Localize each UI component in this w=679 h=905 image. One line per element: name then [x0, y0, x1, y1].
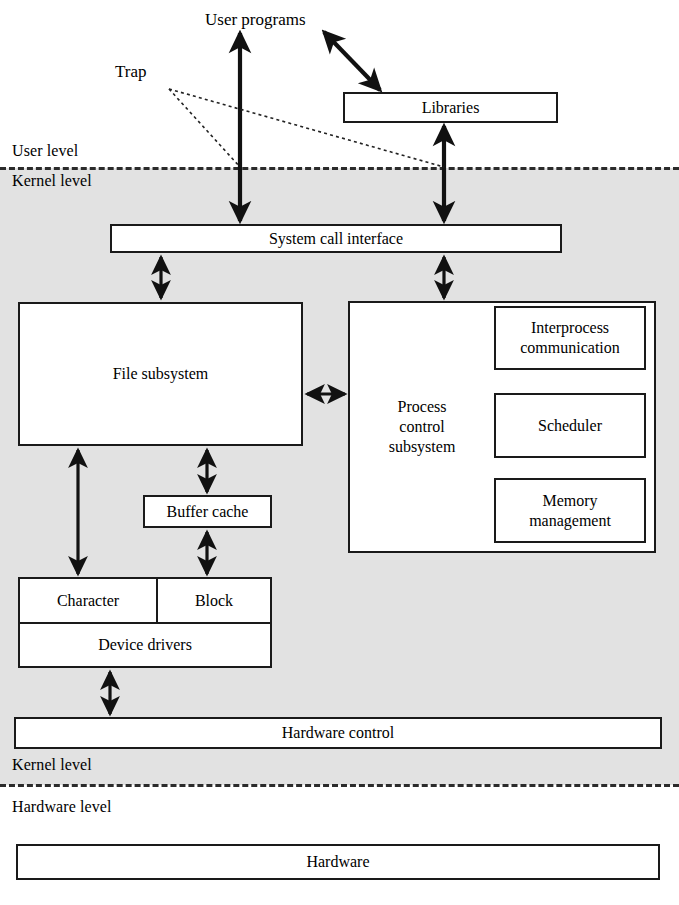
- device-types-row: Character Block: [18, 577, 272, 622]
- character-cell[interactable]: Character: [20, 579, 158, 622]
- hardware-box[interactable]: Hardware: [16, 844, 660, 880]
- scheduler-label: Scheduler: [538, 417, 602, 435]
- hardware-control-box[interactable]: Hardware control: [14, 717, 662, 749]
- level-label-kernel-top: Kernel level: [12, 172, 92, 190]
- interprocess-communication-box[interactable]: Interprocess communication: [494, 306, 646, 370]
- block-label: Block: [195, 592, 233, 610]
- user-kernel-divider: [0, 167, 679, 170]
- buffer-cache-box[interactable]: Buffer cache: [143, 495, 272, 528]
- buffer-cache-label: Buffer cache: [167, 503, 249, 521]
- level-label-kernel-bottom: Kernel level: [12, 756, 92, 774]
- system-call-interface-label: System call interface: [269, 230, 403, 248]
- libraries-box[interactable]: Libraries: [343, 92, 558, 123]
- character-label: Character: [57, 592, 119, 610]
- kernel-hardware-divider: [0, 784, 679, 787]
- hardware-control-label: Hardware control: [282, 724, 394, 742]
- device-drivers-label: Device drivers: [98, 636, 192, 654]
- level-label-user: User level: [12, 142, 78, 160]
- system-call-interface-box[interactable]: System call interface: [110, 224, 562, 253]
- file-subsystem-box[interactable]: File subsystem: [18, 302, 303, 446]
- libraries-label: Libraries: [422, 99, 480, 117]
- level-label-hardware: Hardware level: [12, 798, 112, 816]
- block-cell[interactable]: Block: [158, 579, 270, 622]
- user-programs-label: User programs: [205, 10, 306, 30]
- unix-kernel-architecture-diagram: User level Kernel level Kernel level Har…: [0, 0, 679, 905]
- scheduler-box[interactable]: Scheduler: [494, 393, 646, 458]
- interprocess-communication-label: Interprocess communication: [520, 318, 620, 358]
- device-drivers-box[interactable]: Device drivers: [18, 622, 272, 668]
- memory-management-label: Memory management: [529, 491, 611, 531]
- process-control-subsystem-label: Process control subsystem: [352, 397, 492, 457]
- arrow-user-programs-to-libraries: [324, 32, 380, 90]
- trap-leader-left: [169, 89, 240, 167]
- file-subsystem-label: File subsystem: [113, 365, 209, 383]
- hardware-label: Hardware: [306, 853, 369, 871]
- memory-management-box[interactable]: Memory management: [494, 478, 646, 543]
- trap-label: Trap: [115, 62, 147, 82]
